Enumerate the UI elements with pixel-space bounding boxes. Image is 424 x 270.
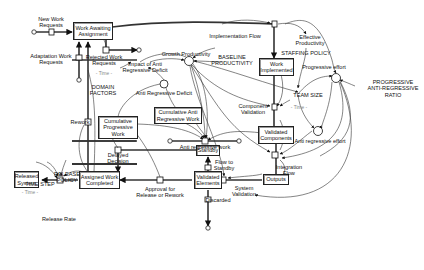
stock-label: WorkImplemented bbox=[260, 61, 292, 74]
aux-label-anti-regressive-effort: Anti regressive effort bbox=[294, 138, 345, 144]
flow-label-component-validation: ComponentValidation bbox=[239, 103, 268, 116]
aux-label-impact-anti-regressive-deficit: Impact of AntiRegressive Deficit bbox=[122, 61, 167, 74]
stock-label: Outputs bbox=[266, 176, 286, 182]
cloud-source-adaptation bbox=[77, 78, 81, 82]
stock-assigned-work-completed[interactable]: Assigned WorkCompleted bbox=[79, 171, 120, 189]
stock-label: ValidatedElements bbox=[196, 174, 219, 187]
graph-time-marker: - Time - bbox=[22, 190, 38, 196]
flow-label-integration-flow: IntegrationFlow bbox=[276, 164, 302, 177]
aux-label-effective-productivity: EffectiveProductivity bbox=[296, 34, 325, 47]
stock-work-implemented[interactable]: WorkImplemented bbox=[259, 58, 294, 76]
aux-label-domain-factors: DOMAINFACTORS bbox=[90, 84, 116, 97]
stock-label: Assigned WorkCompleted bbox=[81, 174, 119, 187]
aux-label-progressive-anti-regressive-ratio: PROGRESSIVEANTI-REGRESSIVERATIO bbox=[368, 79, 419, 98]
diagram-canvas bbox=[0, 0, 424, 270]
flow-label-rejected-work-requests: Rejected WorkRequests bbox=[86, 54, 123, 67]
aux-label-staffing-policy: STAFFING POLICY bbox=[281, 50, 330, 56]
flow-label-implementation-flow: Implementation Flow bbox=[209, 33, 261, 39]
aux-label-progressive-effort: Progressive effort bbox=[302, 64, 346, 70]
aux-label-release-policy: RELEASEPOLICY bbox=[54, 171, 80, 184]
cloud-source-new-work bbox=[32, 30, 36, 34]
flow-label-new-work-requests: New WorkRequests bbox=[38, 16, 64, 29]
aux-label-growth-productivity: Growth Productivity bbox=[162, 51, 211, 57]
stock-label: Work AwaitingAssignment bbox=[75, 25, 110, 38]
graph-time-marker: - Time - bbox=[96, 71, 112, 77]
aux-label-baseline-productivity: BASELINEPRODUCTIVITY bbox=[211, 54, 253, 67]
cloud-sink-rejected bbox=[137, 48, 141, 52]
aux-label-team-size: TEAM SIZE bbox=[293, 92, 323, 98]
aux-label-anti-regressive-deficit: Anti Regressive Deficit bbox=[136, 90, 192, 96]
flow-label-release-rate: Release Rate bbox=[42, 216, 76, 222]
flow-label-adaptation-work-requests: Adaptation WorkRequests bbox=[30, 53, 71, 66]
stock-cumulative-anti-regressive-work[interactable]: Cumulative AntiRegressive Work bbox=[154, 107, 202, 124]
flow-label-discarded: Discarded bbox=[205, 197, 230, 203]
stock-validated-elements[interactable]: ValidatedElements bbox=[194, 171, 222, 189]
cloud-sink-discarded bbox=[206, 226, 210, 230]
stock-validated-components[interactable]: ValidatedComponents bbox=[258, 126, 294, 144]
stock-label: ValidatedComponents bbox=[260, 129, 292, 142]
aux-label-time-step: TIME STEP bbox=[25, 181, 55, 187]
stock-label: Cumulative AntiRegressive Work bbox=[157, 109, 199, 122]
flow-label-approval: Approval forRelease or Rework bbox=[136, 186, 184, 199]
flow-label-delayed-decision: DelayedDecision bbox=[107, 152, 128, 165]
flow-label-anti-regressive-work: Anti regressive work bbox=[180, 144, 230, 150]
stock-work-awaiting-assignment[interactable]: Work AwaitingAssignment bbox=[73, 22, 113, 40]
flow-label-flow-to-standby: Flow toStandby bbox=[214, 159, 235, 172]
stock-label: CumulativeProgressiveWork bbox=[103, 118, 133, 137]
flow-label-system-validation: SystemValidation bbox=[232, 185, 256, 198]
flow-label-rework: Rework bbox=[71, 119, 90, 125]
graph-time-marker: - Time - bbox=[291, 105, 307, 111]
stock-cumulative-progressive-work[interactable]: CumulativeProgressiveWork bbox=[98, 116, 138, 139]
